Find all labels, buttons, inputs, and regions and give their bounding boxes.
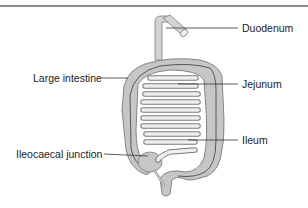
label-jejunum: Jejunum [242,78,282,90]
label-large-intestine: Large intestine [33,72,102,84]
label-ileum: Ileum [242,134,268,146]
label-ileocaecal-junction: Ileocaecal junction [16,148,102,160]
label-duodenum: Duodenum [242,22,293,34]
duodenum-shape [155,15,189,60]
